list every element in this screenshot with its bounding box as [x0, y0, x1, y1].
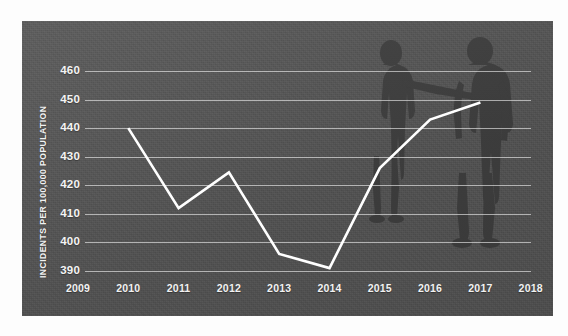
chart-figure: 460450440430420410400390 200920102011201… — [0, 0, 568, 336]
series-polyline — [128, 102, 480, 268]
data-series-line — [0, 0, 568, 336]
